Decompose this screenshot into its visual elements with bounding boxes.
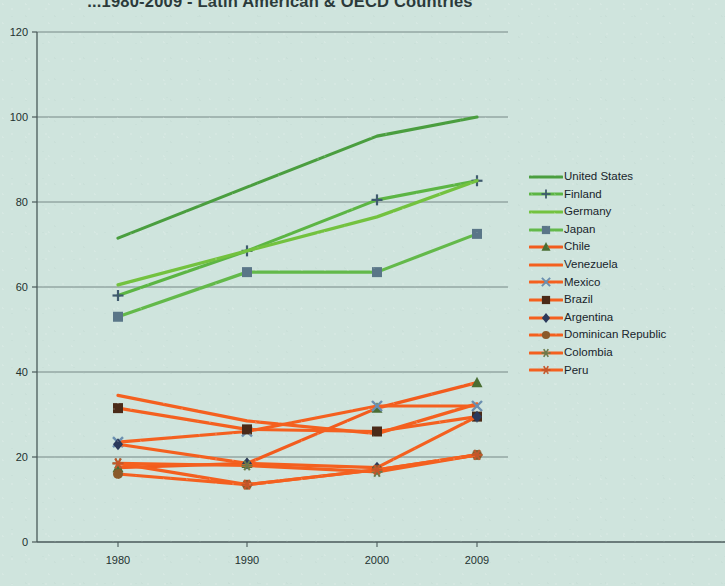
chart-root: ...1980-2009 - Latin American & OECD Cou… (0, 0, 725, 586)
legend-swatch-icon (529, 186, 563, 202)
y-tick-labels-group: 020406080100120 (10, 26, 28, 548)
legend-swatch-icon (529, 345, 563, 361)
legend-label: Germany (563, 206, 611, 218)
data-point-marker (113, 290, 124, 301)
data-series-group (113, 117, 483, 490)
legend-swatch-icon (529, 169, 563, 185)
legend-swatch-icon (529, 362, 563, 378)
data-point-marker (542, 331, 550, 339)
series-japan (113, 229, 482, 322)
legend-swatch-icon (529, 204, 563, 220)
legend-item-germany[interactable]: Germany (529, 203, 725, 221)
legend-swatch-icon (529, 257, 563, 273)
legend-item-finland[interactable]: Finland (529, 186, 725, 204)
legend-item-united-states[interactable]: United States (529, 168, 725, 186)
legend-swatch-icon (529, 239, 563, 255)
data-point-marker (541, 366, 550, 374)
legend-item-chile[interactable]: Chile (529, 238, 725, 256)
legend-label: Peru (563, 365, 588, 377)
x-tick-label: 2009 (465, 554, 489, 566)
data-point-marker (542, 225, 550, 233)
data-point-marker (113, 469, 123, 479)
legend-label: United States (563, 171, 633, 183)
legend-label: Argentina (563, 312, 613, 324)
legend-swatch-icon (529, 327, 563, 343)
series-united-states (118, 117, 477, 238)
x-tick-label: 2000 (365, 554, 389, 566)
legend-item-argentina[interactable]: Argentina (529, 309, 725, 327)
series-peru (113, 450, 483, 489)
legend-item-brazil[interactable]: Brazil (529, 291, 725, 309)
y-tick-label: 80 (16, 196, 28, 208)
y-tick-label: 20 (16, 451, 28, 463)
data-point-marker (542, 313, 550, 323)
data-point-marker (372, 194, 383, 205)
y-tick-label: 60 (16, 281, 28, 293)
legend-item-colombia[interactable]: Colombia (529, 344, 725, 362)
x-tick-labels-group: 1980199020002009 (106, 542, 489, 566)
legend-label: Dominican Republic (563, 329, 666, 341)
legend-label: Mexico (563, 277, 600, 289)
y-tick-label: 0 (22, 536, 28, 548)
legend-swatch-icon (529, 292, 563, 308)
legend-label: Chile (563, 241, 590, 253)
series-dominican-republic (113, 450, 482, 490)
data-point-marker (472, 229, 482, 239)
legend-item-dominican-republic[interactable]: Dominican Republic (529, 326, 725, 344)
x-tick-label: 1980 (106, 554, 130, 566)
y-tick-label: 100 (10, 111, 28, 123)
data-point-marker (242, 424, 252, 434)
series-venezuela (118, 395, 477, 433)
data-point-marker (472, 377, 483, 388)
data-point-marker (113, 403, 123, 413)
data-point-marker (372, 427, 382, 437)
data-point-marker (242, 267, 252, 277)
legend-item-venezuela[interactable]: Venezuela (529, 256, 725, 274)
data-point-marker (372, 267, 382, 277)
data-point-marker (113, 312, 123, 322)
legend-swatch-icon (529, 310, 563, 326)
y-tick-label: 40 (16, 366, 28, 378)
series-germany (118, 181, 477, 285)
legend-label: Japan (563, 224, 595, 236)
legend-label: Colombia (563, 347, 613, 359)
x-tick-label: 1990 (235, 554, 259, 566)
legend-item-japan[interactable]: Japan (529, 221, 725, 239)
legend-item-peru[interactable]: Peru (529, 362, 725, 380)
data-point-marker (541, 190, 550, 199)
legend-swatch-icon (529, 274, 563, 290)
data-point-marker (542, 296, 550, 304)
legend-label: Venezuela (563, 259, 618, 271)
chart-legend: United StatesFinlandGermanyJapanChileVen… (529, 168, 725, 379)
legend-swatch-icon (529, 222, 563, 238)
legend-label: Brazil (563, 294, 593, 306)
data-point-marker (541, 349, 550, 357)
legend-label: Finland (563, 189, 602, 201)
legend-item-mexico[interactable]: Mexico (529, 274, 725, 292)
y-tick-label: 120 (10, 26, 28, 38)
